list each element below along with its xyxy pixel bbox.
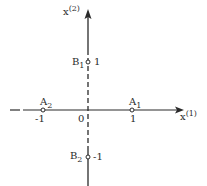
- y-axis-label: x(2): [63, 7, 80, 17]
- origin-label: 0: [78, 114, 84, 124]
- point-a1-label: A1: [129, 97, 141, 107]
- x-axis-label: x(1): [180, 112, 197, 122]
- point-b1-label: B1: [72, 57, 84, 67]
- point-b1-coord: 1: [94, 57, 100, 67]
- point-b2-coord: -1: [93, 152, 103, 162]
- point-a1-coord: 1: [130, 114, 136, 124]
- axes-svg: [0, 0, 207, 186]
- point-b2-label: B2: [70, 151, 82, 161]
- point-a1-marker: [130, 108, 134, 112]
- point-a2-marker: [41, 108, 45, 112]
- point-b2-marker: [86, 155, 90, 159]
- point-b1-marker: [86, 60, 90, 64]
- point-a2-label: A2: [40, 97, 52, 107]
- point-a2-coord: -1: [35, 114, 45, 124]
- coordinate-diagram: x(2) x(1) 0 A2 -1 A1 1 B1 1 B2 -1: [0, 0, 207, 186]
